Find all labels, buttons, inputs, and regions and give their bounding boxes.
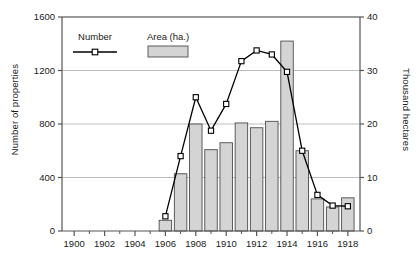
y-axis-left-ticks: 040080012001600 bbox=[34, 11, 62, 236]
y-tick-label-left: 1200 bbox=[34, 65, 55, 76]
legend-label-area: Area (ha.) bbox=[147, 31, 189, 42]
x-tick-label: 1904 bbox=[124, 238, 145, 249]
y-tick-label-right: 0 bbox=[367, 225, 372, 236]
marker-1912 bbox=[254, 48, 259, 53]
x-tick-label: 1916 bbox=[307, 238, 328, 249]
marker-1916 bbox=[315, 192, 320, 197]
marker-1915 bbox=[300, 148, 305, 153]
marker-1906 bbox=[163, 214, 168, 219]
y-tick-label-left: 800 bbox=[39, 118, 55, 129]
y-tick-label-left: 400 bbox=[39, 172, 55, 183]
legend-marker-number bbox=[92, 49, 98, 55]
y-axis-right-ticks: 010203040 bbox=[360, 11, 378, 236]
y-tick-label-right: 20 bbox=[367, 118, 378, 129]
marker-1911 bbox=[239, 59, 244, 64]
legend-swatch-area bbox=[148, 46, 188, 57]
chart-figure: Number of properties Thousand hectares 0… bbox=[0, 0, 418, 264]
bar-1908 bbox=[190, 124, 202, 231]
marker-1914 bbox=[284, 69, 289, 74]
x-tick-label: 1908 bbox=[185, 238, 206, 249]
y-tick-label-right: 30 bbox=[367, 65, 378, 76]
bar-1912 bbox=[250, 128, 262, 231]
bar-1916 bbox=[311, 199, 323, 231]
marker-1909 bbox=[208, 128, 213, 133]
x-tick-label: 1914 bbox=[276, 238, 297, 249]
bar-1910 bbox=[220, 143, 232, 231]
bar-1909 bbox=[205, 150, 217, 231]
marker-1907 bbox=[178, 154, 183, 159]
bar-1906 bbox=[159, 220, 171, 231]
bar-1907 bbox=[174, 174, 186, 231]
bar-series bbox=[159, 41, 354, 231]
legend-label-number: Number bbox=[78, 31, 112, 42]
bar-1918 bbox=[342, 198, 354, 231]
marker-1913 bbox=[269, 52, 274, 57]
y-tick-label-left: 1600 bbox=[34, 11, 55, 22]
plot-area: 0400800120016000102030401900190219041906… bbox=[0, 0, 418, 264]
x-tick-label: 1918 bbox=[337, 238, 358, 249]
legend: NumberArea (ha.) bbox=[73, 31, 189, 57]
y-tick-label-right: 40 bbox=[367, 11, 378, 22]
marker-1917 bbox=[330, 203, 335, 208]
x-tick-label: 1912 bbox=[246, 238, 267, 249]
bar-1917 bbox=[326, 207, 338, 231]
y-tick-label-right: 10 bbox=[367, 172, 378, 183]
x-tick-label: 1900 bbox=[64, 238, 85, 249]
bar-1911 bbox=[235, 123, 247, 231]
y-tick-label-left: 0 bbox=[50, 225, 55, 236]
x-tick-label: 1902 bbox=[94, 238, 115, 249]
x-tick-label: 1910 bbox=[216, 238, 237, 249]
bar-1913 bbox=[266, 121, 278, 231]
marker-1908 bbox=[193, 95, 198, 100]
marker-1918 bbox=[345, 204, 350, 209]
x-tick-label: 1906 bbox=[155, 238, 176, 249]
x-axis-ticks: 1900190219041906190819101912191419161918 bbox=[64, 231, 359, 249]
marker-1910 bbox=[224, 101, 229, 106]
